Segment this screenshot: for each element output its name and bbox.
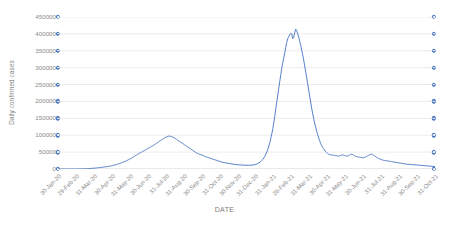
daily-confirmed-cases-chart: Daily confirmed cases 450000400000350000… — [0, 0, 449, 231]
x-tick-label: 30-Sep-20 — [152, 173, 206, 227]
y-tick-label: 0 — [16, 166, 56, 172]
x-tick-label: 31-May-20 — [80, 173, 134, 227]
y-axis-tick-labels: 4500004000003500003000002500002000001500… — [15, 0, 56, 231]
x-tick-label: 30-Jun-20 — [98, 173, 152, 227]
y-axis-title-label: Daily confirmed cases — [8, 60, 15, 125]
series-svg — [58, 17, 435, 169]
x-tick-label: 30-Sep-21 — [368, 173, 422, 227]
x-tick-label: 30-Jun-21 — [314, 173, 368, 227]
x-tick-label: 31-Oct-20 — [170, 173, 224, 227]
y-tick-label: 400000 — [16, 31, 56, 37]
x-tick-label: 30-Nov-20 — [188, 173, 242, 227]
x-tick-label: 28-Feb-21 — [242, 173, 296, 227]
y-tick-label: 300000 — [16, 65, 56, 71]
y-tick-label: 350000 — [16, 48, 56, 54]
x-tick-label: 31-Dec-20 — [206, 173, 260, 227]
x-tick-label: 30-Apr-21 — [278, 173, 332, 227]
y-tick-label: 200000 — [16, 98, 56, 104]
x-tick-label: 31-May-21 — [296, 173, 350, 227]
y-tick-label: 450000 — [16, 14, 56, 20]
y-tick-label: 250000 — [16, 81, 56, 87]
y-tick-label: 100000 — [16, 132, 56, 138]
x-tick-label: 31-Jul-21 — [332, 173, 386, 227]
plot-area — [58, 17, 435, 169]
x-tick-label: 31-Aug-20 — [134, 173, 188, 227]
gridlines — [58, 17, 435, 169]
x-tick-label: 31-Jan-21 — [224, 173, 278, 227]
x-tick-label: 30-Apr-20 — [62, 173, 116, 227]
x-tick-label: 31-Aug-21 — [350, 173, 404, 227]
y-tick-label: 50000 — [16, 149, 56, 155]
series-line-daily-confirmed-cases — [58, 29, 435, 169]
x-tick-label: 31-Mar-21 — [260, 173, 314, 227]
x-axis-title: DATE — [0, 206, 449, 213]
y-tick-label: 150000 — [16, 115, 56, 121]
x-tick-label: 31-Jul-20 — [116, 173, 170, 227]
